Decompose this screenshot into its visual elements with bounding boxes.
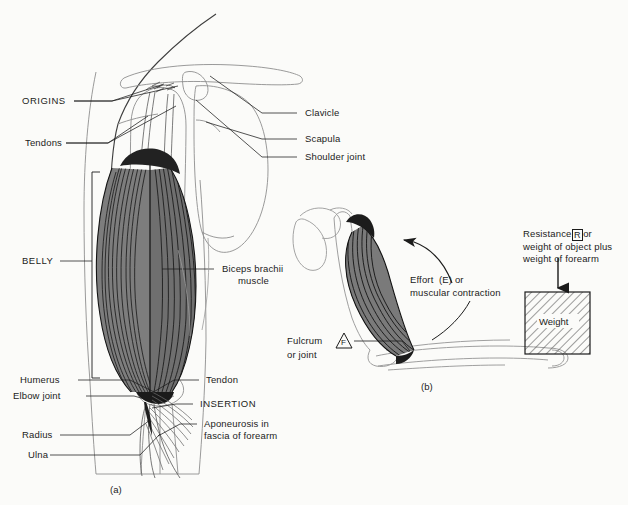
panel-b-caption: (b) — [421, 381, 433, 392]
label-humerus: Humerus — [20, 374, 60, 386]
label-fulcrum-line2: or joint — [287, 349, 317, 361]
panel-b-scapula — [293, 208, 352, 270]
label-scapula: Scapula — [305, 133, 340, 145]
label-shoulder-joint: Shoulder joint — [305, 151, 365, 163]
label-resistance-line2: weight of object plus — [523, 241, 612, 253]
label-weight: Weight — [539, 316, 568, 327]
distal-tendon — [136, 392, 193, 478]
label-biceps-brachii-line1: Biceps brachii — [222, 263, 283, 275]
label-tendons: Tendons — [25, 137, 62, 149]
panel-a-caption: (a) — [110, 484, 122, 495]
label-clavicle: Clavicle — [305, 107, 339, 119]
label-aponeurosis-line2: fascia of forearm — [204, 430, 277, 442]
effort-leader — [432, 301, 470, 340]
biceps-belly — [96, 149, 196, 392]
scapula-bone — [182, 71, 268, 252]
label-belly: BELLY — [22, 255, 53, 267]
resistance-suffix: or — [583, 228, 592, 239]
label-fulcrum-line1: Fulcrum — [287, 335, 322, 347]
resistance-symbol-r: R — [572, 229, 584, 241]
label-insertion: INSERTION — [200, 398, 256, 410]
label-elbow-joint: Elbow joint — [13, 390, 61, 402]
panel-a-drawing — [50, 14, 302, 478]
label-origins: ORIGINS — [22, 95, 66, 107]
resistance-prefix: Resistance — [523, 228, 572, 239]
label-aponeurosis-line1: Aponeurosis in — [204, 418, 269, 430]
label-ulna: Ulna — [28, 449, 48, 461]
label-tendon: Tendon — [206, 374, 238, 386]
clavicle-bone — [120, 65, 302, 89]
label-biceps-brachii-line2: muscle — [238, 275, 269, 287]
label-radius: Radius — [22, 429, 52, 441]
label-resistance-line1: ResistanceRor — [523, 228, 592, 241]
fulcrum-symbol-f: F — [341, 337, 346, 349]
label-resistance-line3: weight of forearm — [523, 253, 599, 265]
label-effort-line1: Effort (E) or — [410, 274, 464, 286]
panel-b-biceps — [342, 214, 420, 364]
label-effort-line2: muscular contraction — [410, 287, 501, 299]
